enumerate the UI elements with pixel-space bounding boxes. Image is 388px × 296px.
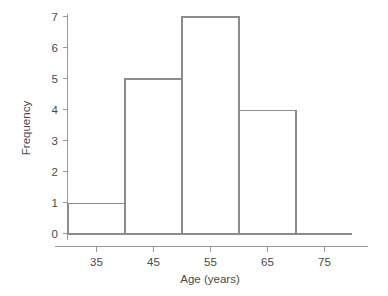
x-tick-label-65: 65	[261, 256, 274, 268]
y-tick-label-5: 5	[52, 73, 58, 85]
y-tick-label-2: 2	[52, 166, 58, 178]
x-tick-label-45: 45	[147, 256, 160, 268]
x-axis-title: Age (years)	[180, 273, 240, 285]
histogram-bar-50-60	[182, 17, 239, 234]
y-tick-label-6: 6	[52, 42, 58, 54]
y-tick-label-4: 4	[52, 104, 59, 116]
y-tick-label-1: 1	[52, 197, 58, 209]
histogram-figure: 7 6 5 4 3 2 1 0 35 45 55 65 75 Age (year…	[0, 0, 388, 296]
x-tick-label-75: 75	[318, 256, 331, 268]
x-tick-label-35: 35	[90, 256, 103, 268]
histogram-plot-area: 7 6 5 4 3 2 1 0 35 45 55 65 75 Age (year…	[0, 0, 388, 296]
histogram-bar-40-50	[125, 79, 182, 234]
histogram-bar-60-70	[239, 111, 296, 235]
y-tick-marks	[63, 17, 68, 234]
y-tick-label-7: 7	[52, 11, 58, 23]
y-axis-title: Frequency	[20, 101, 32, 156]
x-tick-label-55: 55	[204, 256, 217, 268]
histogram-bar-30-40	[68, 204, 125, 235]
y-tick-label-0: 0	[52, 228, 58, 240]
x-tick-marks	[97, 247, 325, 253]
y-tick-label-3: 3	[52, 135, 58, 147]
